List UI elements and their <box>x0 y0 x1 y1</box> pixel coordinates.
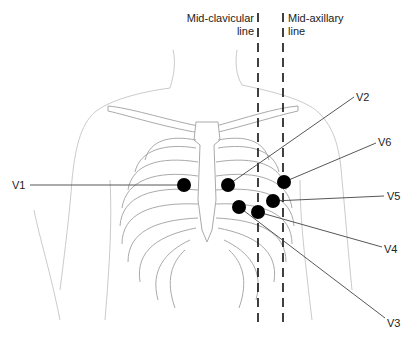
mid-axillary-label-line1: Mid-axillary <box>288 12 344 25</box>
mid-axillary-label: Mid-axillary line <box>288 12 344 38</box>
lead-label-v5: V5 <box>387 190 400 203</box>
electrode-v5[interactable] <box>266 194 280 208</box>
lead-label-v2: V2 <box>356 91 369 104</box>
leader-v6 <box>284 143 376 182</box>
lead-label-v4: V4 <box>384 243 397 256</box>
lead-label-v1: V1 <box>12 179 25 192</box>
sternum <box>194 122 220 242</box>
mid-clavicular-label-line2: line <box>187 25 254 38</box>
electrode-v2[interactable] <box>221 178 235 192</box>
electrode-v3[interactable] <box>232 200 246 214</box>
electrode-v1[interactable] <box>177 178 191 192</box>
reference-lines <box>258 13 283 326</box>
lead-label-v3: V3 <box>387 317 400 330</box>
leader-v4 <box>258 212 382 247</box>
electrode-v4[interactable] <box>251 205 265 219</box>
electrode-v6[interactable] <box>277 175 291 189</box>
leader-v3 <box>239 207 385 318</box>
lead-label-v6: V6 <box>378 136 391 149</box>
ribs-left <box>120 138 198 308</box>
chest-anatomy-diagram <box>0 0 411 339</box>
mid-axillary-label-line2: line <box>288 25 344 38</box>
mid-clavicular-label: Mid-clavicular line <box>187 12 254 38</box>
mid-clavicular-label-line1: Mid-clavicular <box>187 12 254 25</box>
